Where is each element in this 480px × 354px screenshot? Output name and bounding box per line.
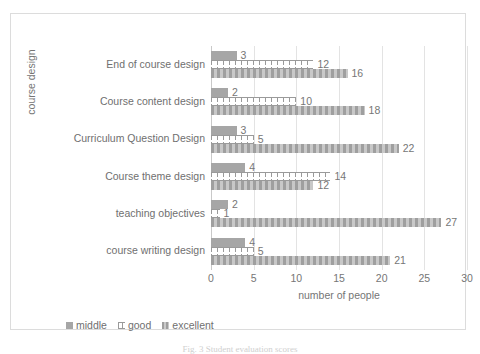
bar-row: 21 [211, 256, 467, 265]
bar-middle[interactable] [211, 163, 245, 172]
x-axis-tick: 10 [290, 272, 302, 284]
bar-excellent[interactable] [211, 144, 399, 153]
bar-middle[interactable] [211, 88, 228, 97]
legend-label: excellent [172, 319, 213, 331]
bar-row: 10 [211, 97, 467, 106]
bar-good[interactable] [211, 135, 254, 144]
bar-group: 4521 [211, 233, 467, 270]
x-axis-tick: 20 [376, 272, 388, 284]
bar-row: 5 [211, 247, 467, 256]
bar-middle[interactable] [211, 51, 237, 60]
figure-caption: Fig. 3 Student evaluation scores [0, 344, 480, 354]
bar-row: 22 [211, 144, 467, 153]
bar-good[interactable] [211, 97, 296, 106]
legend-item-good[interactable]: good [118, 319, 151, 331]
x-axis-tick: 15 [333, 272, 345, 284]
bar-good[interactable] [211, 60, 313, 69]
bar-value-label: 21 [394, 254, 406, 266]
bar-excellent[interactable] [211, 69, 348, 78]
bar-excellent[interactable] [211, 256, 390, 265]
bar-middle[interactable] [211, 238, 245, 247]
bar-middle[interactable] [211, 126, 237, 135]
x-axis-title: number of people [211, 289, 467, 301]
bar-value-label: 22 [403, 142, 415, 154]
category-label: Curriculum Question Design [15, 132, 205, 144]
bar-value-label: 12 [317, 179, 329, 191]
bar-group: 2127 [211, 195, 467, 232]
bar-value-label: 18 [369, 104, 381, 116]
bar-row: 3 [211, 51, 467, 60]
plot-area: 452121274141235222101831216 [211, 46, 467, 270]
bar-row: 3 [211, 126, 467, 135]
bar-row: 14 [211, 172, 467, 181]
legend-swatch-icon [118, 322, 125, 329]
gridline [467, 46, 468, 270]
bar-row: 12 [211, 60, 467, 69]
category-label: course writing design [15, 244, 205, 256]
x-axis-tick: 0 [208, 272, 214, 284]
bar-group: 3522 [211, 121, 467, 158]
x-axis-tick: 30 [461, 272, 473, 284]
legend-label: middle [76, 319, 107, 331]
category-label: Course content design [15, 95, 205, 107]
bar-row: 1 [211, 209, 467, 218]
bar-row: 18 [211, 106, 467, 115]
chart-legend: middlegoodexcellent [66, 319, 214, 331]
bar-row: 16 [211, 69, 467, 78]
bar-row: 27 [211, 218, 467, 227]
bar-good[interactable] [211, 209, 220, 218]
bar-excellent[interactable] [211, 181, 313, 190]
bar-row: 2 [211, 200, 467, 209]
bar-row: 5 [211, 135, 467, 144]
bar-good[interactable] [211, 172, 330, 181]
bar-excellent[interactable] [211, 106, 365, 115]
legend-item-excellent[interactable]: excellent [162, 319, 213, 331]
bar-row: 2 [211, 88, 467, 97]
category-label: End of course design [15, 58, 205, 70]
bar-row: 12 [211, 181, 467, 190]
bar-excellent[interactable] [211, 218, 441, 227]
bar-group: 31216 [211, 46, 467, 83]
x-axis-tick-list: 051015202530 [211, 272, 467, 288]
legend-swatch-icon [66, 322, 73, 329]
legend-label: good [128, 319, 151, 331]
legend-item-middle[interactable]: middle [66, 319, 107, 331]
category-label: teaching objectives [15, 207, 205, 219]
category-label: Course theme design [15, 170, 205, 182]
legend-swatch-icon [162, 322, 169, 329]
bar-group: 21018 [211, 83, 467, 120]
bar-good[interactable] [211, 247, 254, 256]
bar-value-label: 16 [352, 67, 364, 79]
bar-row: 4 [211, 238, 467, 247]
x-axis-tick: 25 [418, 272, 430, 284]
category-label-list: course writing designteaching objectives… [11, 46, 205, 270]
chart-frame: course design course writing designteach… [10, 13, 466, 330]
x-axis-tick: 5 [251, 272, 257, 284]
bar-group: 41412 [211, 158, 467, 195]
bar-value-label: 27 [445, 216, 457, 228]
